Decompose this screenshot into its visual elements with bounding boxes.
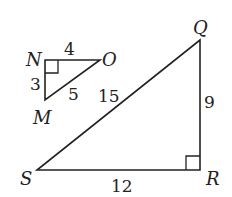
vertex-label-m: M [32, 107, 52, 128]
vertex-label-o: O [102, 49, 117, 70]
side-label-qr: 9 [204, 92, 215, 112]
triangle-mno: N O M 4 3 5 [25, 39, 117, 128]
right-angle-marker-n [45, 60, 58, 73]
vertex-label-s: S [20, 168, 32, 189]
vertex-label-n: N [25, 49, 43, 70]
side-label-sr: 12 [111, 176, 133, 196]
vertex-label-q: Q [193, 17, 208, 38]
right-angle-marker-r [186, 156, 200, 170]
side-label-no: 4 [64, 39, 75, 59]
vertex-label-r: R [205, 168, 220, 189]
side-label-nm: 3 [30, 74, 41, 94]
similar-triangles-diagram: N O M 4 3 5 Q R S 15 9 12 [0, 0, 232, 197]
side-label-mo: 5 [68, 84, 79, 104]
side-label-sq: 15 [98, 86, 120, 106]
